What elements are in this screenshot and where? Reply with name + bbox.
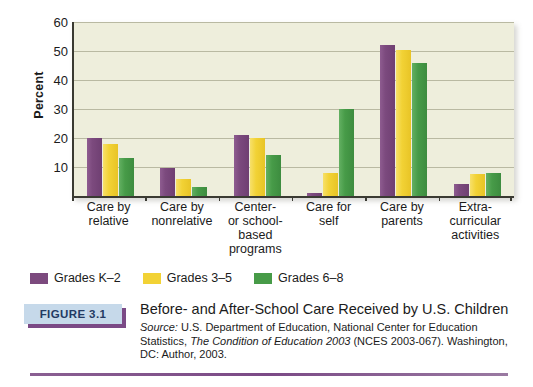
bar [266,155,281,196]
x-category-label: Extra-curricularactivities [439,200,512,256]
legend-label: Grades 3–5 [167,271,232,285]
y-axis-tick-labels: 102030405060 [38,22,68,196]
bar [486,173,501,196]
bar [103,144,118,196]
bar-group [74,22,147,196]
bar [250,138,265,196]
source-publication-title: The Condition of Education 2003 [190,335,350,347]
bar [87,138,102,196]
bar [380,45,395,196]
y-tick-label: 20 [38,131,68,146]
x-category-label-line: parents [366,214,437,228]
x-category-label-line: relative [73,214,144,228]
figure-number-badge: FIGURE 3.1 [24,304,122,324]
figure-title: Before- and After-School Care Received b… [140,300,518,319]
x-category-label: Care byparents [365,200,438,256]
y-tick-label: 60 [38,15,68,30]
chart-legend: Grades K–2Grades 3–5Grades 6–8 [30,271,343,285]
bar-group [221,22,294,196]
legend-swatch-icon [254,273,272,284]
x-category-label-line: Care by [366,200,437,214]
bar [192,187,207,196]
bar [234,135,249,196]
source-label: Source: [140,321,178,333]
x-category-label-line: Extra- [440,200,511,214]
figure-chart-region: Percent 102030405060 Care byrelativeCare… [0,0,533,265]
bar [339,109,354,196]
bar [412,63,427,196]
bar [454,184,469,196]
x-category-label-line: programs [220,242,291,256]
x-category-label: Center-or school-basedprograms [219,200,292,256]
x-category-label-line: nonrelative [146,214,217,228]
legend-label: Grades K–2 [54,271,121,285]
x-category-label-line: or school- [220,214,291,228]
legend-label: Grades 6–8 [278,271,343,285]
x-category-label-line: self [293,214,364,228]
y-tick-label: 50 [38,44,68,59]
bar [119,158,134,196]
plot-area [72,22,514,198]
bar-group [441,22,514,196]
legend-swatch-icon [30,273,48,284]
x-category-label-line: based [220,228,291,242]
legend-swatch-icon [143,273,161,284]
x-category-label-line: Care by [73,200,144,214]
caption-text-column: Before- and After-School Care Received b… [140,300,518,362]
bar [470,174,485,196]
bar [176,179,191,196]
x-category-label-line: curricular [440,214,511,228]
bar [396,50,411,196]
x-category-label-line: activities [440,228,511,242]
bar [160,168,175,196]
x-category-label: Care byrelative [72,200,145,256]
legend-item: Grades K–2 [30,271,121,285]
figure-caption-block: FIGURE 3.1 Before- and After-School Care… [0,300,533,387]
x-category-label: Care bynonrelative [145,200,218,256]
bar-group [367,22,440,196]
figure-badge-label: FIGURE 3.1 [40,308,107,320]
x-category-label: Care forself [292,200,365,256]
y-tick-label: 30 [38,102,68,117]
caption-bottom-rule [30,373,508,376]
legend-item: Grades 3–5 [143,271,232,285]
x-axis-category-labels: Care byrelativeCare bynonrelativeCenter-… [72,200,512,256]
figure-source-note: Source: U.S. Department of Education, Na… [140,321,518,362]
bar-group [147,22,220,196]
x-category-label-line: Care for [293,200,364,214]
bar [323,173,338,196]
bar-group [294,22,367,196]
legend-item: Grades 6–8 [254,271,343,285]
x-category-label-line: Care by [146,200,217,214]
x-category-label-line: Center- [220,200,291,214]
y-tick-label: 40 [38,73,68,88]
figure-number-badge-wrap: FIGURE 3.1 [24,304,126,326]
y-tick-label: 10 [38,160,68,175]
bar-groups-container [74,22,514,196]
